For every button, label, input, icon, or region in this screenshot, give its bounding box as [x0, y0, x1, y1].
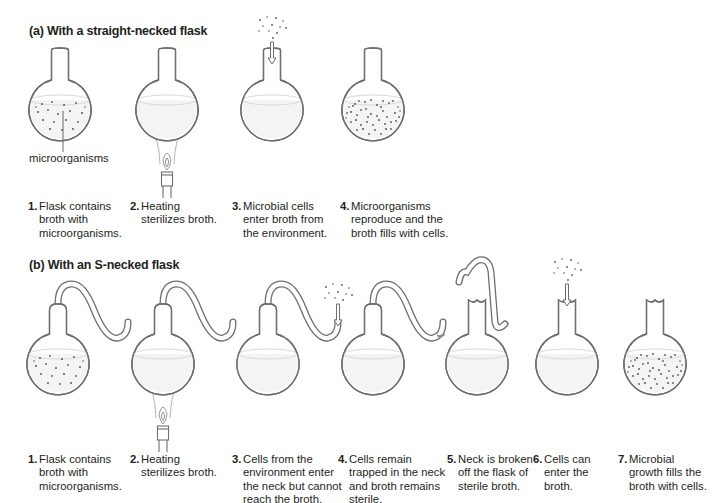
a-step-2-caption: 2. Heating sterilizes broth. [130, 200, 217, 227]
step-number: 4. [340, 200, 351, 240]
step-text: Cells can enter the broth. [544, 453, 590, 493]
b-flask-3 [237, 283, 353, 395]
microorganisms-callout: microorganisms [29, 152, 109, 164]
down-arrow-icon [334, 304, 342, 326]
step-number: 5. [447, 453, 458, 493]
step-number: 6. [533, 453, 544, 493]
b-step-2-caption: 2. Heating sterilizes broth. [130, 453, 217, 480]
step-text: Cells remain trapped in the neck and bro… [349, 453, 445, 503]
b-step-1-caption: 1. Flask contains broth with microorgani… [28, 453, 122, 493]
burner-icon [158, 407, 169, 452]
step-text: Microbial growth fills the broth with ce… [629, 453, 707, 493]
b-flask-7 [624, 300, 686, 395]
a-flask-1 [29, 48, 91, 152]
a-flask-4 [342, 48, 404, 141]
step-text: Heating sterilizes broth. [141, 453, 217, 480]
step-number: 2. [130, 200, 141, 227]
b-step-3-caption: 3. Cells from the environment enter the … [232, 453, 342, 503]
a-flask-2-heating [136, 48, 198, 198]
step-number: 1. [28, 200, 39, 240]
a-step-4-caption: 4. Microorganisms reproduce and the brot… [340, 200, 448, 240]
step-number: 4. [338, 453, 349, 503]
a-step-3-caption: 3. Microbial cells enter broth from the … [232, 200, 327, 240]
a-flask-3 [241, 16, 303, 141]
step-text: Heating sterilizes broth. [141, 200, 217, 227]
step-number: 7. [618, 453, 629, 493]
step-text: Microorganisms reproduce and the broth f… [351, 200, 448, 240]
step-text: Cells from the environment enter the nec… [243, 453, 342, 503]
flask-illustrations [0, 0, 718, 503]
step-number: 3. [232, 453, 243, 503]
step-text: Flask contains broth with microorganisms… [39, 200, 122, 240]
step-number: 3. [232, 200, 243, 240]
b-step-6-caption: 6. Cells can enter the broth. [533, 453, 590, 493]
b-step-4-caption: 4. Cells remain trapped in the neck and … [338, 453, 445, 503]
step-number: 1. [28, 453, 39, 493]
b-flask-5-broken [446, 260, 508, 395]
b-step-5-caption: 5. Neck is broken off the flask of steri… [447, 453, 533, 493]
b-flask-4 [342, 284, 445, 395]
b-flask-1 [27, 284, 128, 395]
step-number: 2. [130, 453, 141, 480]
burner-icon [162, 153, 173, 198]
b-flask-6 [536, 258, 598, 395]
a-step-1-caption: 1. Flask contains broth with microorgani… [28, 200, 122, 240]
step-text: Neck is broken off the flask of sterile … [458, 453, 533, 493]
step-text: Microbial cells enter broth from the env… [243, 200, 327, 240]
b-flask-2-heating [132, 284, 233, 452]
down-arrow-icon [563, 284, 571, 306]
step-text: Flask contains broth with microorganisms… [39, 453, 122, 493]
b-step-7-caption: 7. Microbial growth fills the broth with… [618, 453, 707, 493]
